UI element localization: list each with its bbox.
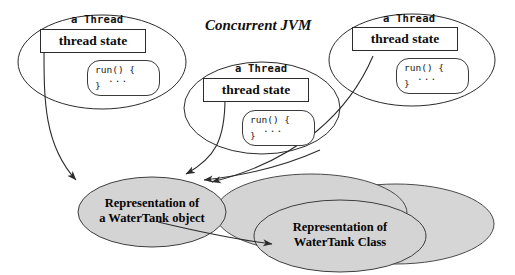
thread-right-run-dots: ... (417, 72, 437, 82)
object-node-line2: a WaterTank object (82, 211, 222, 226)
thread-middle-run-line3: } (250, 131, 256, 141)
object-node-label: Representation of a WaterTank object (82, 196, 222, 226)
class-node-line1: Representation of (270, 220, 410, 235)
thread-right-run-line3: } (404, 79, 410, 89)
thread-left-run-dots: ... (108, 74, 128, 84)
thread-right-state-box: thread state (352, 27, 458, 51)
arrow-middle-thread-to-object (186, 98, 225, 174)
thread-middle-caption: a Thread (235, 62, 287, 74)
thread-middle-run-dots: ... (263, 124, 283, 134)
diagram-canvas: Concurrent JVM a Thread thread state run… (0, 0, 515, 275)
diagram-title: Concurrent JVM (205, 17, 311, 34)
class-node-line2: WaterTank Class (270, 235, 410, 250)
thread-left-run-line3: } (95, 81, 101, 91)
arrow-left-thread-to-object (44, 50, 76, 180)
class-node-label: Representation of WaterTank Class (270, 220, 410, 250)
object-node-line1: Representation of (82, 196, 222, 211)
thread-right-caption: a Thread (383, 12, 435, 24)
thread-right-run-box: run() { ... } (396, 58, 469, 94)
thread-middle-run-box: run() { ... } (242, 110, 315, 146)
thread-left-caption: a Thread (71, 13, 123, 25)
thread-left-run-box: run() { ... } (87, 60, 160, 96)
thread-middle-state-box: thread state (203, 78, 309, 102)
thread-left-state-box: thread state (40, 29, 146, 53)
